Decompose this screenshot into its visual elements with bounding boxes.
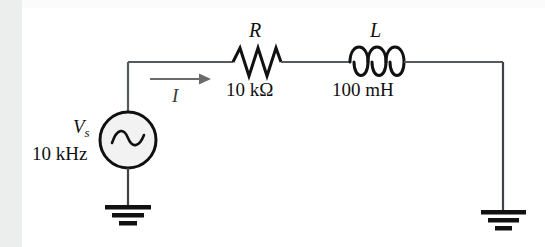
inductor-value-label: 100 mH bbox=[332, 80, 394, 99]
ground-left-icon bbox=[105, 205, 151, 226]
ground-right-icon bbox=[481, 210, 526, 231]
inductor-designator-label: L bbox=[370, 20, 381, 40]
resistor-designator-label: R bbox=[249, 20, 261, 40]
resistor-symbol bbox=[233, 48, 281, 76]
inductor-symbol bbox=[350, 47, 404, 76]
source-designator-text: V bbox=[73, 116, 85, 137]
source-frequency-label: 10 kHz bbox=[32, 144, 87, 163]
resistor-value-label: 10 kΩ bbox=[226, 80, 273, 99]
current-arrow-icon bbox=[150, 74, 211, 85]
source-designator-subscript: s bbox=[85, 125, 90, 140]
current-label: I bbox=[172, 86, 178, 105]
circuit-diagram-canvas: R 10 kΩ L 100 mH Vs 10 kHz I bbox=[0, 0, 545, 247]
source-designator-label: Vs bbox=[73, 117, 90, 139]
